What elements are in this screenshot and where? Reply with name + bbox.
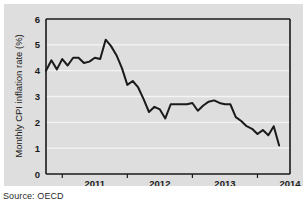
y-tick-label-3: 3 [35,91,40,102]
cpi-inflation-line-chart: 0123456 2011201220132014 Monthly CPI inf… [4,4,303,186]
source-note: Source: OECD [3,191,64,201]
y-tick-label-1: 1 [35,143,41,154]
y-tick-label-2: 2 [35,117,40,128]
x-tick-label-2014: 2014 [279,178,301,187]
x-tick-label-2013: 2013 [214,178,235,187]
figure-container: 0123456 2011201220132014 Monthly CPI inf… [0,0,307,211]
y-tick-label-0: 0 [35,169,40,180]
chart-panel: 0123456 2011201220132014 Monthly CPI inf… [4,4,303,186]
y-tick-label-5: 5 [35,39,41,50]
y-axis-tick-labels: 0123456 [35,14,41,180]
y-axis-title: Monthly CPI inflation rate (%) [13,34,24,158]
y-tick-label-4: 4 [35,65,41,76]
x-axis-tick-labels: 2011201220132014 [62,174,301,186]
x-tick-label-2012: 2012 [149,178,170,187]
y-tick-label-6: 6 [35,14,40,25]
x-tick-label-2011: 2011 [84,178,105,187]
